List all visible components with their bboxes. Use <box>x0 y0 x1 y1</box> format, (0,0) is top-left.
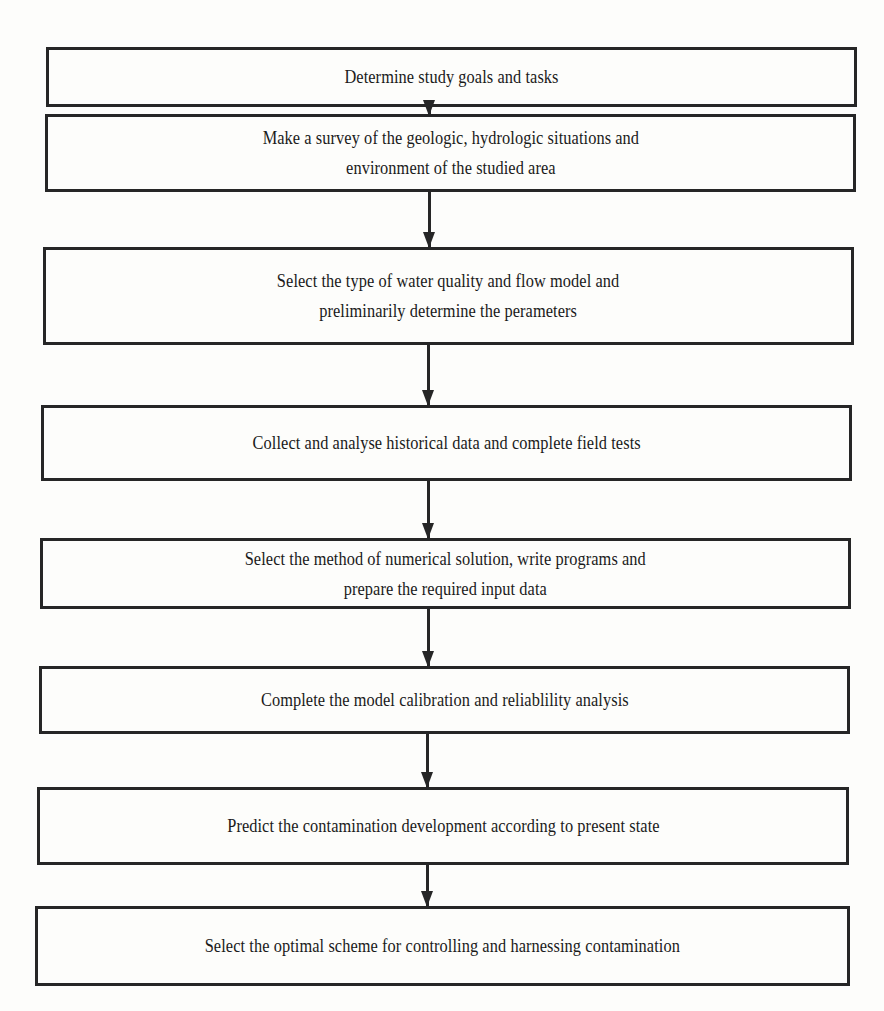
flow-step-label: Collect and analyse historical data and … <box>252 428 640 458</box>
flow-step-survey-area: Make a survey of the geologic, hydrologi… <box>45 114 856 192</box>
flow-step-label: Determine study goals and tasks <box>344 62 558 92</box>
flow-step-label: Make a survey of the geologic, hydrologi… <box>262 123 638 183</box>
arrow-down-icon <box>427 481 430 538</box>
arrow-down-icon <box>428 192 431 247</box>
flow-step-label: Select the optimal scheme for controllin… <box>205 931 680 961</box>
flow-step-label: Predict the contamination development ac… <box>227 811 659 841</box>
flow-step-label: Complete the model calibration and relia… <box>261 685 629 715</box>
flow-step-optimal-scheme: Select the optimal scheme for controllin… <box>35 906 850 986</box>
arrow-down-icon <box>426 865 429 906</box>
arrow-down-icon <box>427 609 430 666</box>
flow-step-label: Select the type of water quality and flo… <box>277 266 619 326</box>
flow-step-collect-data: Collect and analyse historical data and … <box>41 405 852 481</box>
flow-step-label: Select the method of numerical solution,… <box>245 544 646 604</box>
flow-step-determine-goals: Determine study goals and tasks <box>46 47 857 107</box>
flow-step-calibration: Complete the model calibration and relia… <box>39 666 850 734</box>
flow-step-numerical-method: Select the method of numerical solution,… <box>40 538 851 609</box>
arrow-down-icon <box>428 107 431 115</box>
arrow-down-icon <box>427 345 430 405</box>
flow-step-select-model-type: Select the type of water quality and flo… <box>43 247 854 345</box>
flow-step-predict-contamination: Predict the contamination development ac… <box>37 787 849 865</box>
arrow-down-icon <box>426 734 429 787</box>
